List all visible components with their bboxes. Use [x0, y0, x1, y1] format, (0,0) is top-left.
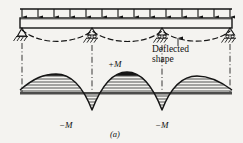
deflected-shape-label: Deflected shape [152, 45, 189, 65]
negative-moment-label-right: −M [155, 121, 169, 130]
beam-member [20, 18, 232, 28]
support-mid-2 [154, 28, 169, 43]
positive-moment-label: +M [108, 60, 122, 69]
diagram-canvas [0, 0, 243, 143]
figure-caption: (a) [110, 130, 120, 139]
negative-moment-label-left: −M [59, 121, 73, 130]
moment-diagram [20, 72, 232, 110]
deflected-shape-curve [22, 30, 230, 42]
figure-continuous-beam-moment-diagram: Deflected shape +M −M −M (a) [0, 0, 243, 143]
distributed-load [20, 9, 232, 17]
deflected-shape-label-line2: shape [152, 55, 189, 65]
support-left [14, 28, 29, 41]
